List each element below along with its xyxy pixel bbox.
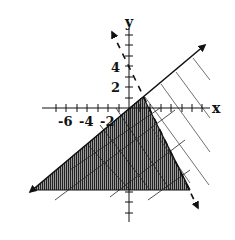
x-axis-label: x: [212, 100, 221, 116]
inequality-graph: y x -6 -4 -2 4 2: [0, 0, 235, 240]
x-tick-label: -4: [79, 114, 93, 129]
y-tick-label: 4: [111, 60, 120, 75]
y-tick-label: 2: [111, 80, 120, 95]
x-tick-label: -6: [58, 114, 72, 129]
y-axis-label: y: [124, 14, 134, 30]
